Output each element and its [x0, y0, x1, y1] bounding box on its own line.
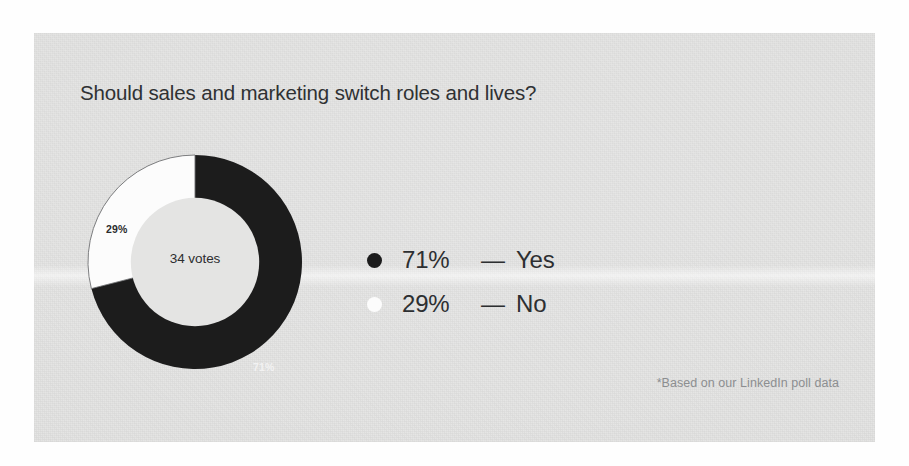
- legend-item-yes[interactable]: 71% — Yes: [367, 238, 555, 282]
- screenshot-canvas: Should sales and marketing switch roles …: [0, 0, 909, 466]
- donut-center-total-votes: 34 votes: [88, 251, 302, 266]
- legend-dash-yes: —: [470, 246, 516, 274]
- legend-item-no[interactable]: 29% — No: [367, 282, 555, 326]
- legend-dash-no: —: [470, 290, 516, 318]
- chart-legend: 71% — Yes 29% — No: [367, 238, 555, 326]
- light-dot-icon: [367, 297, 382, 312]
- source-footnote: *Based on our LinkedIn poll data: [657, 376, 839, 390]
- page-title: Should sales and marketing switch roles …: [80, 80, 536, 106]
- donut-slice-label-no: 29%: [106, 223, 127, 235]
- donut-chart: 29% 71% 34 votes: [88, 155, 302, 369]
- donut-slice-label-yes: 71%: [253, 361, 274, 373]
- legend-label-no: No: [516, 290, 546, 318]
- legend-percent-yes: 71%: [402, 246, 470, 274]
- dark-dot-icon: [367, 253, 382, 268]
- legend-percent-no: 29%: [402, 290, 470, 318]
- poll-result-card: Should sales and marketing switch roles …: [34, 33, 875, 442]
- legend-label-yes: Yes: [516, 246, 555, 274]
